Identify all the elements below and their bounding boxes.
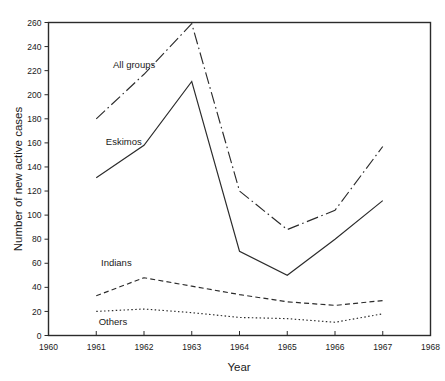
- x-tick-label: 1964: [230, 342, 249, 352]
- y-tick-label: 20: [32, 307, 42, 317]
- x-tick-label: 1966: [326, 342, 345, 352]
- y-tick-label: 180: [27, 114, 41, 124]
- x-tick-label: 1965: [278, 342, 297, 352]
- series-annotations: All groupsEskimosIndiansOthers: [99, 59, 156, 326]
- x-tick-label: 1962: [135, 342, 154, 352]
- x-tick-label: 1960: [39, 342, 58, 352]
- y-axis-ticks: 020406080100120140160180200220240260: [27, 18, 48, 341]
- chart-page: 020406080100120140160180200220240260 196…: [0, 0, 445, 381]
- y-tick-label: 240: [27, 42, 41, 52]
- y-axis-title: Number of new active cases: [12, 107, 24, 252]
- x-tick-label: 1961: [87, 342, 106, 352]
- y-tick-label: 40: [32, 282, 42, 292]
- x-tick-label: 1967: [373, 342, 392, 352]
- series-line-others: [96, 309, 383, 322]
- series-line-all-groups: [96, 24, 383, 230]
- y-tick-label: 120: [27, 186, 41, 196]
- series-line-eskimos: [96, 81, 383, 275]
- y-tick-label: 80: [32, 234, 42, 244]
- y-tick-label: 60: [32, 258, 42, 268]
- y-tick-label: 100: [27, 210, 41, 220]
- series-label-eskimos: Eskimos: [106, 136, 142, 147]
- line-chart: 020406080100120140160180200220240260 196…: [0, 0, 445, 381]
- x-axis-ticks: 196019611962196319641965196619671968: [39, 331, 440, 352]
- x-tick-label: 1963: [182, 342, 201, 352]
- y-tick-label: 0: [37, 331, 42, 341]
- y-tick-label: 220: [27, 66, 41, 76]
- series-line-indians: [96, 278, 383, 306]
- y-tick-label: 140: [27, 162, 41, 172]
- series-label-all-groups: All groups: [113, 59, 155, 70]
- y-tick-label: 200: [27, 90, 41, 100]
- y-tick-label: 160: [27, 138, 41, 148]
- plot-frame: [49, 23, 431, 336]
- x-tick-label: 1968: [421, 342, 440, 352]
- series-label-others: Others: [99, 316, 128, 327]
- y-tick-label: 260: [27, 18, 41, 28]
- x-axis-title: Year: [227, 361, 250, 373]
- series-label-indians: Indians: [101, 257, 132, 268]
